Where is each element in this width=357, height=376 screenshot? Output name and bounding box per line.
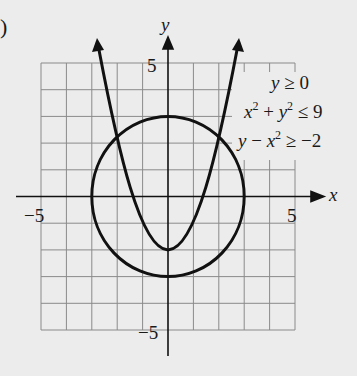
corner-label: ) [0,16,7,38]
inequality-1: y ≥ 0 [271,73,309,92]
x-max-tick: 5 [287,206,297,225]
y-max-tick: 5 [147,56,157,75]
y-axis-label: y [161,15,169,34]
y-axis-arrow-icon [163,37,173,49]
x-axis-label: x [329,185,337,204]
x-min-tick: −5 [24,206,44,225]
graph [0,0,357,376]
y-min-tick: −5 [138,323,158,342]
x-axis-arrow-icon [311,192,324,202]
parabola-left-arrow-icon [92,38,104,52]
inequality-2: x2 + y2 ≤ 9 [244,102,323,121]
parabola-right-arrow-icon [232,38,244,52]
inequality-3: y − x2 ≥ −2 [238,131,321,150]
